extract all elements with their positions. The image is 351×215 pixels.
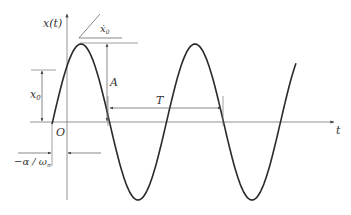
period-label: T: [156, 94, 165, 107]
t-axis-label: t: [336, 124, 341, 137]
initial-displacement-dimension: x0: [30, 70, 56, 121]
origin-label: O: [56, 126, 65, 139]
amplitude-dimension: A: [80, 43, 138, 121]
y-axis-label: x(t): [43, 17, 62, 30]
xdot0-label: ẋ0: [100, 23, 110, 35]
period-dimension: T: [108, 94, 223, 126]
amplitude-label: A: [109, 76, 118, 89]
initial-velocity-indicator: ẋ0: [79, 14, 122, 38]
axes: [30, 14, 334, 200]
phase-shift-label: −α / ωn: [14, 156, 51, 168]
x0-label: x0: [30, 88, 41, 102]
vibration-diagram: x0 ẋ0 A T O x(t) t −α / ωn: [0, 0, 351, 215]
